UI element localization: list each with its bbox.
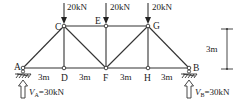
joint-d bbox=[62, 66, 66, 70]
load-arrow-e bbox=[103, 3, 109, 24]
height-dimension bbox=[221, 28, 233, 70]
truss-members bbox=[23, 26, 189, 68]
load-label-g: 20kN bbox=[152, 2, 173, 12]
node-label-c: C bbox=[55, 22, 61, 32]
load-label-c: 20kN bbox=[67, 2, 88, 12]
span-label-1: 3m bbox=[38, 72, 50, 82]
span-label-3: 3m bbox=[120, 72, 132, 82]
reaction-label-b: VB=30kN bbox=[195, 87, 230, 98]
truss-diagram: A D F H B C E G 20kN 20kN 20kN 3m 3m 3m … bbox=[0, 0, 241, 108]
reaction-arrow-b bbox=[185, 80, 194, 98]
joint-e bbox=[104, 24, 108, 28]
node-label-b: B bbox=[193, 63, 199, 73]
member-fg bbox=[106, 26, 148, 68]
joint-g bbox=[146, 24, 150, 28]
arrow-down-icon bbox=[103, 17, 109, 24]
joint-h bbox=[146, 66, 150, 70]
height-dimension-label: 3m bbox=[206, 44, 218, 54]
span-label-2: 3m bbox=[79, 72, 91, 82]
node-label-d: D bbox=[61, 73, 68, 83]
member-cf bbox=[64, 26, 106, 68]
reaction-label-a: VA=30kN bbox=[29, 87, 64, 98]
node-label-h: H bbox=[144, 73, 151, 83]
member-gb bbox=[148, 26, 189, 68]
member-ac bbox=[23, 26, 64, 68]
load-label-e: 20kN bbox=[110, 2, 131, 12]
node-label-f: F bbox=[103, 73, 108, 83]
reaction-value-b: =30kN bbox=[205, 87, 231, 97]
arrow-down-icon bbox=[145, 17, 151, 24]
joint-c bbox=[62, 24, 66, 28]
node-label-a: A bbox=[14, 62, 21, 72]
reaction-arrow-a bbox=[19, 80, 28, 98]
load-arrow-g bbox=[145, 3, 151, 24]
node-label-g: G bbox=[153, 21, 160, 31]
joint-b bbox=[187, 66, 191, 70]
arrow-up-icon bbox=[185, 80, 194, 98]
node-label-e: E bbox=[95, 16, 101, 26]
span-label-4: 3m bbox=[161, 72, 173, 82]
joint-f bbox=[104, 66, 108, 70]
reaction-value-a: =30kN bbox=[39, 87, 65, 97]
arrow-down-icon bbox=[61, 17, 67, 24]
arrow-up-icon bbox=[19, 80, 28, 98]
joint-a bbox=[21, 66, 25, 70]
